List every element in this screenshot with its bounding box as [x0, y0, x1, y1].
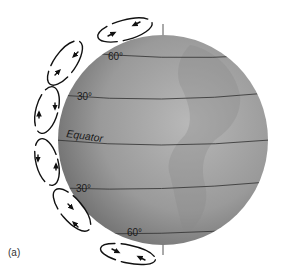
label-60n: 60°: [108, 51, 123, 62]
label-30s: 30°: [76, 183, 91, 194]
panel-label: (a): [8, 247, 20, 258]
label-30n: 30°: [77, 91, 92, 102]
globe-circulation-diagram: 60° 30° Equator 30° 60° (a): [0, 0, 282, 279]
label-60s: 60°: [127, 227, 142, 238]
